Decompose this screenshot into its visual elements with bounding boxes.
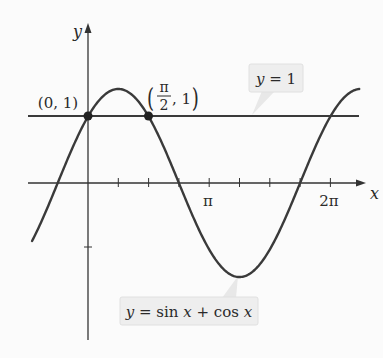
paren-left: (	[147, 83, 154, 113]
point-pi-half-1	[144, 112, 153, 121]
line-callout: y = 1	[249, 64, 303, 115]
plot-area: y = 1 y = sin x + cos x y x π 2π (0, 1) …	[0, 0, 383, 358]
line-callout-text: y = 1	[255, 70, 296, 88]
tick-label-pi: π	[203, 192, 213, 210]
point-0-1	[84, 112, 93, 121]
point-label-0-1: (0, 1)	[38, 94, 78, 112]
point-label-pi-half-1: ( π 2 , 1 )	[147, 79, 199, 113]
x-axis-label: x	[370, 184, 379, 203]
y-axis	[85, 23, 92, 340]
fraction-numerator: π	[159, 79, 168, 95]
chart-figure: y = 1 y = sin x + cos x y x π 2π (0, 1) …	[0, 0, 383, 358]
point-b-rest: , 1	[172, 90, 191, 108]
x-axis	[28, 180, 366, 187]
paren-right: )	[192, 83, 199, 113]
curve-callout: y = sin x + cos x	[120, 276, 258, 325]
curve-callout-text: y = sin x + cos x	[125, 303, 253, 321]
tick-label-2pi: 2π	[319, 192, 339, 210]
y-axis-label: y	[72, 22, 83, 41]
fraction-denominator: 2	[160, 97, 169, 113]
